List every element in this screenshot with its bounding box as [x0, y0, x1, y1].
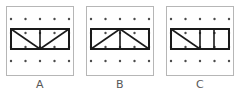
panel-c: C	[164, 6, 236, 91]
geoboard-a	[6, 6, 74, 76]
shape-c	[171, 29, 229, 49]
panel-c-label: C	[196, 78, 204, 91]
panel-group: A	[0, 0, 240, 101]
geoboard-b	[86, 6, 154, 76]
geoboard-c-canvas	[167, 7, 233, 75]
panel-b-label: B	[116, 78, 124, 91]
panel-a-label: A	[36, 78, 44, 91]
shape-b	[91, 29, 149, 49]
shape-a	[11, 29, 69, 49]
geoboard-b-canvas	[87, 7, 153, 75]
geoboard-a-canvas	[7, 7, 73, 75]
geoboard-c	[166, 6, 234, 76]
figure-container: A	[0, 0, 240, 101]
panel-a: A	[4, 6, 76, 91]
panel-b: B	[84, 6, 156, 91]
